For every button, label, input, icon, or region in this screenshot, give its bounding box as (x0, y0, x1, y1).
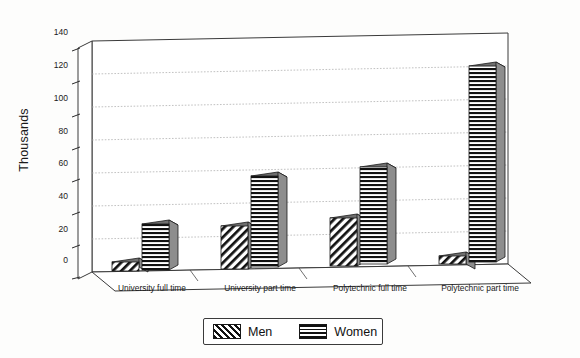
legend-swatch-women-icon (299, 324, 327, 339)
y-tick-label-20: 20 (38, 224, 68, 234)
y-tick-label-100: 100 (38, 93, 68, 103)
x-category-label-2: Polytechnic full time (325, 283, 415, 293)
plot-left-wall (78, 41, 92, 279)
bar-women-1 (251, 172, 287, 267)
legend-item-men: Men (204, 319, 272, 344)
chart-legend: Men Women (203, 318, 383, 345)
bar-women-0 (142, 220, 178, 270)
legend-item-women: Women (290, 319, 377, 344)
bar-women-2 (360, 163, 396, 264)
y-tick-label-60: 60 (38, 158, 68, 168)
y-tick-label-40: 40 (38, 191, 68, 201)
y-tick-label-80: 80 (38, 126, 68, 136)
y-tick-label-140: 140 (38, 27, 68, 37)
legend-label-men: Men (248, 325, 272, 339)
chart-plot-area (0, 0, 580, 358)
y-axis-title: Thousands (17, 85, 31, 195)
x-category-label-3: Polytechnic part time (434, 283, 526, 293)
y-tick-label-0: 0 (38, 255, 68, 265)
bar-women-3 (469, 62, 505, 262)
x-category-label-0: University full time (108, 283, 196, 293)
legend-label-women: Women (334, 325, 377, 339)
x-category-label-1: University part time (216, 283, 304, 293)
bar-chart: Thousands 140 120 100 80 60 40 20 0 Univ… (0, 0, 580, 358)
legend-swatch-men-icon (213, 324, 241, 339)
y-tick-label-120: 120 (38, 60, 68, 70)
